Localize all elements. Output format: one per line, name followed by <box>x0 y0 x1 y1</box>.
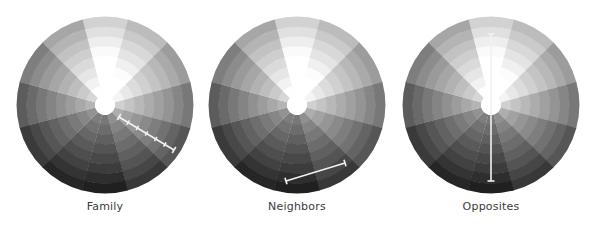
opposites-wheel <box>403 17 580 194</box>
wheel-segment <box>287 133 308 144</box>
wheel-segment <box>284 143 310 155</box>
wheel-segment <box>92 143 118 155</box>
wheel-segment <box>442 92 454 118</box>
wheel-segment <box>519 95 530 116</box>
wheel-segment <box>538 90 550 121</box>
wheel-segment <box>95 133 116 144</box>
wheel-segment <box>238 89 250 120</box>
wheel-segment <box>143 92 155 118</box>
wheel-segment <box>281 152 312 164</box>
neighbors-label: Neighbors <box>237 200 357 213</box>
wheel-segment <box>284 56 310 68</box>
family-wheel <box>17 17 194 194</box>
color-wheel-diagram <box>0 0 594 227</box>
wheel-segment <box>56 92 68 118</box>
wheel-segment <box>152 90 164 121</box>
wheel-segment <box>529 92 541 118</box>
wheel-segment <box>133 95 144 116</box>
wheel-segment <box>89 152 120 164</box>
wheel-segment <box>451 95 462 116</box>
wheel-segment <box>325 95 336 116</box>
wheel-segment <box>287 65 308 76</box>
opposites-label: Opposites <box>431 200 551 213</box>
wheel-segment <box>95 65 116 76</box>
wheel-segment <box>344 90 356 121</box>
wheel-segment <box>432 89 444 120</box>
wheel-center-hole <box>287 95 307 115</box>
family-label: Family <box>45 200 165 213</box>
wheel-segment <box>282 46 313 58</box>
neighbors-wheel <box>209 17 386 194</box>
wheel-segment <box>248 92 260 118</box>
wheel-segment <box>335 92 347 118</box>
wheel-segment <box>46 89 58 120</box>
wheel-segment <box>257 95 268 116</box>
wheel-segment <box>90 46 121 58</box>
wheel-segment <box>65 95 76 116</box>
wheel-center-hole <box>95 95 115 115</box>
wheel-segment <box>92 56 118 68</box>
